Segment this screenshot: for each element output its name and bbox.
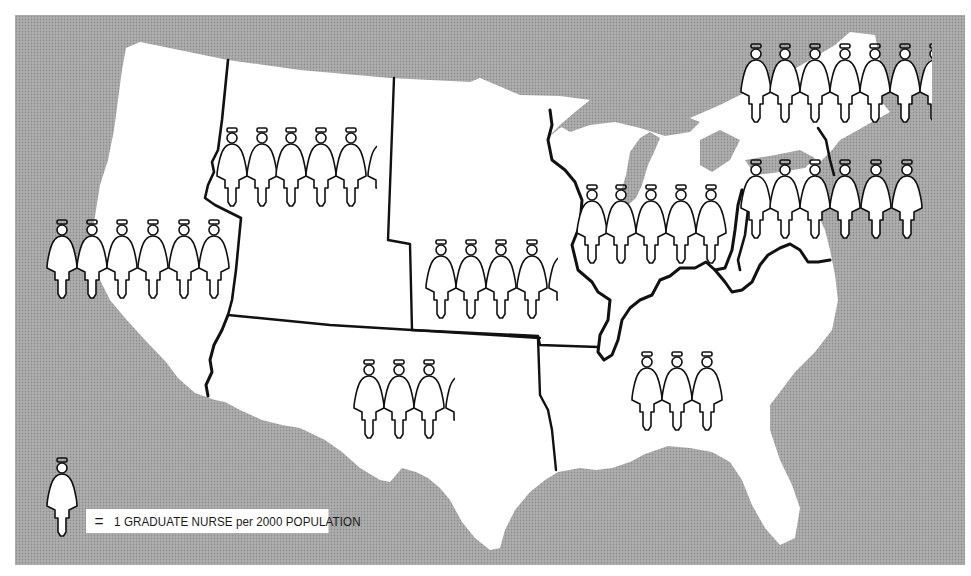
nurse-pictogram-map: [0, 0, 971, 576]
legend-label: = 1 GRADUATE NURSE per 2000 POPULATION: [86, 509, 329, 533]
legend-equals: =: [95, 512, 104, 530]
region-south-nurses: [632, 352, 722, 430]
legend-text: 1 GRADUATE NURSE per 2000 POPULATION: [114, 514, 361, 529]
